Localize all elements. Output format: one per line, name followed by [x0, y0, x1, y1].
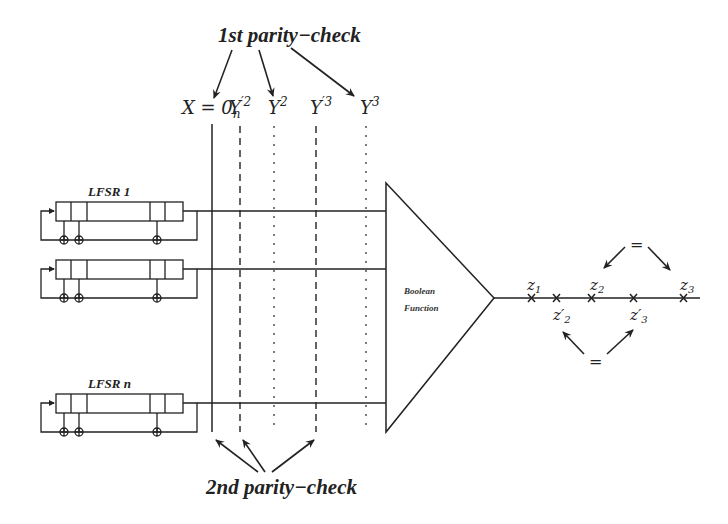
equal-sign-top: =	[630, 235, 643, 254]
lfsr-2	[41, 260, 386, 302]
label-z2-prime: z′2	[552, 306, 571, 325]
equal-sign-bottom: =	[589, 352, 602, 371]
column-label-y-prime-3: Y′3	[310, 95, 333, 118]
boolean-function-line2: Function	[403, 303, 439, 313]
column-label-y-2: Y2	[268, 95, 288, 118]
label-z3-prime: z′3	[629, 306, 648, 325]
equality-arrows	[563, 247, 670, 354]
first-parity-check-label: 1st parity−check	[218, 23, 361, 47]
column-label-y-prime-2: Y′2	[229, 95, 251, 118]
label-z1: z1	[526, 276, 541, 295]
first-parity-check-arrows	[214, 48, 354, 98]
column-label-y-3: Y3	[360, 95, 380, 118]
column-labels: X = 0n Y′2 Y2 Y′3 Y3	[180, 95, 380, 121]
lfsr-n: LFSR n	[41, 376, 386, 436]
label-z2: z2	[589, 276, 604, 295]
lfsr-n-label: LFSR n	[87, 376, 131, 391]
second-parity-check-arrows	[216, 440, 314, 472]
boolean-function-block: Boolean Function	[386, 183, 494, 432]
column-lines	[212, 124, 366, 432]
output-labels: z1 z′2 z2 z′3 z3	[526, 276, 694, 325]
lfsr-1-label: LFSR 1	[87, 184, 130, 199]
second-parity-check-label: 2nd parity−check	[205, 475, 357, 499]
lfsr-1: LFSR 1	[41, 184, 386, 244]
label-z3: z3	[679, 276, 694, 295]
boolean-function-line1: Boolean	[403, 286, 435, 296]
parity-check-diagram: 1st parity−check X = 0n Y′2 Y2 Y′3 Y3 LF…	[0, 0, 728, 524]
